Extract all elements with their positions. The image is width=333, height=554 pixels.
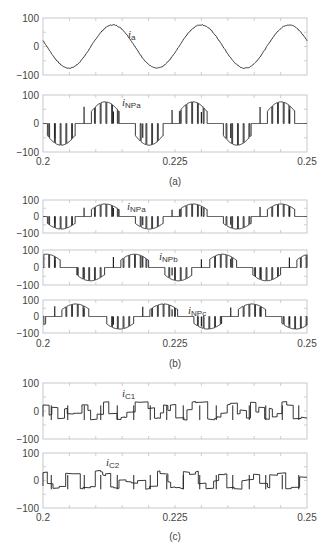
y-tick-label: −100 bbox=[16, 228, 39, 239]
waveform-line bbox=[43, 102, 307, 145]
x-tick-label: 0.25 bbox=[297, 338, 317, 349]
label-ic1: iC1 bbox=[122, 387, 136, 401]
subplot-inpc: 1000−100 bbox=[16, 295, 307, 339]
waveform-line bbox=[43, 304, 307, 329]
y-tick-label: 100 bbox=[22, 295, 39, 306]
label-inpa-b: iNPa bbox=[127, 200, 146, 214]
label-ic2: iC2 bbox=[106, 456, 120, 470]
caption-a: (a) bbox=[169, 176, 181, 187]
x-tick-label: 0.25 bbox=[297, 156, 317, 167]
label-inpa-a: iNPa bbox=[122, 96, 141, 110]
y-tick-label: 100 bbox=[22, 378, 39, 389]
y-tick-label: 0 bbox=[33, 311, 39, 322]
subplot-ic2: 1000−100 bbox=[16, 448, 307, 514]
y-tick-label: 100 bbox=[22, 245, 39, 256]
subplot-inpa-a: 1000−100 bbox=[16, 90, 307, 158]
y-tick-label: −100 bbox=[16, 434, 39, 445]
y-tick-label: 0 bbox=[33, 406, 39, 417]
y-tick-label: 100 bbox=[22, 90, 39, 101]
y-tick-label: −100 bbox=[16, 70, 39, 81]
y-tick-label: 100 bbox=[22, 448, 39, 459]
x-tick-label: 0.225 bbox=[162, 156, 187, 167]
y-tick-label: 0 bbox=[33, 41, 39, 52]
label-ia: ia bbox=[128, 28, 136, 42]
x-tick-label: 0.2 bbox=[36, 338, 50, 349]
x-tick-label: 0.25 bbox=[297, 512, 317, 523]
x-tick-label: 0.2 bbox=[36, 156, 50, 167]
label-inpc: iNPc bbox=[188, 304, 206, 318]
waveform-line bbox=[43, 401, 307, 420]
y-tick-label: 100 bbox=[22, 195, 39, 206]
figure: 1000−100ia1000−100iNPa0.20.2250.25(a)100… bbox=[0, 0, 333, 554]
y-tick-label: −100 bbox=[16, 280, 39, 291]
y-tick-label: 100 bbox=[22, 13, 39, 24]
x-tick-label: 0.225 bbox=[162, 512, 187, 523]
y-tick-label: 0 bbox=[33, 211, 39, 222]
subplot-ia: 1000−100 bbox=[16, 13, 307, 81]
waveform-line bbox=[43, 25, 307, 69]
caption-c: (c) bbox=[169, 531, 181, 542]
y-tick-label: 0 bbox=[33, 262, 39, 273]
subplot-inpa-b: 1000−100 bbox=[16, 195, 307, 239]
x-tick-label: 0.225 bbox=[162, 338, 187, 349]
x-tick-label: 0.2 bbox=[36, 512, 50, 523]
y-tick-label: 0 bbox=[33, 118, 39, 129]
y-tick-label: 0 bbox=[33, 475, 39, 486]
y-tick-label: −100 bbox=[16, 328, 39, 339]
waveform-line bbox=[43, 470, 307, 489]
subplot-ic1: 1000−100 bbox=[16, 378, 307, 445]
waveform-line bbox=[43, 204, 307, 229]
caption-b: (b) bbox=[169, 358, 181, 369]
